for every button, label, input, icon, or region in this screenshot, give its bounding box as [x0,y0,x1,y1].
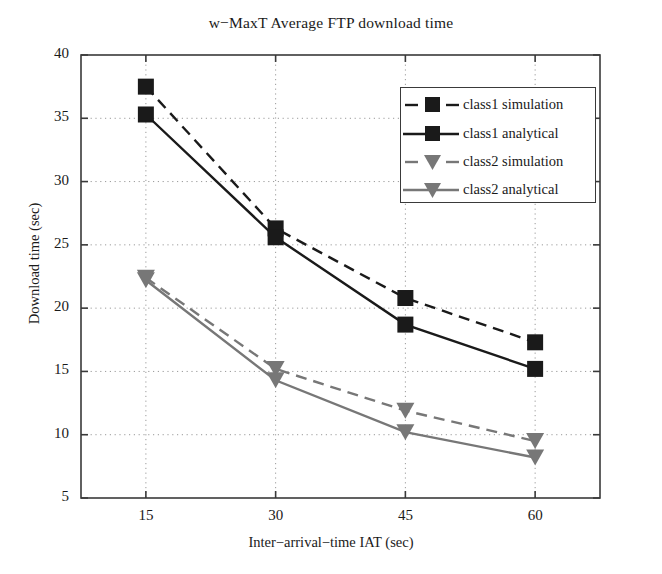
data-point-marker [527,334,543,350]
y-tick-label: 25 [29,235,69,252]
data-point-marker [396,424,414,440]
chart-figure: w−MaxT Average FTP download time Downloa… [0,0,662,574]
data-point-marker [396,403,414,419]
legend-swatch-class2-analytical [401,177,463,203]
y-tick-label: 30 [29,172,69,189]
data-point-marker [138,79,154,95]
legend-swatch-class1-analytical [401,121,463,147]
y-tick-label: 20 [29,298,69,315]
chart-legend: class1 simulation class1 analytical clas… [400,87,596,203]
y-tick-label: 5 [29,488,69,505]
legend-entry-class1-analytical: class1 analytical [401,119,597,148]
data-point-marker [138,106,154,122]
legend-entry-class2-analytical: class2 analytical [401,175,597,204]
y-tick-label: 40 [29,45,69,62]
series-line-3 [146,280,535,457]
data-point-marker [267,372,285,388]
y-tick-label: 15 [29,361,69,378]
x-tick-label: 30 [251,507,301,524]
data-point-marker [527,361,543,377]
legend-label: class1 analytical [463,125,558,142]
x-tick-label: 60 [510,507,560,524]
x-tick-label: 15 [121,507,171,524]
legend-entry-class2-simulation: class2 simulation [401,147,597,176]
legend-entry-class1-simulation: class1 simulation [401,90,597,119]
data-point-marker [397,290,413,306]
data-point-marker [397,317,413,333]
y-tick-label: 35 [29,108,69,125]
data-point-marker [268,229,284,245]
legend-swatch-class1-simulation [401,92,463,118]
series-line-2 [146,278,535,441]
legend-swatch-class2-simulation [401,149,463,175]
legend-label: class1 simulation [463,96,563,113]
y-tick-label: 10 [29,425,69,442]
x-axis-label: Inter−arrival−time IAT (sec) [0,534,662,551]
legend-label: class2 analytical [463,181,558,198]
data-point-marker [526,433,544,449]
x-tick-label: 45 [380,507,430,524]
legend-label: class2 simulation [463,153,563,170]
